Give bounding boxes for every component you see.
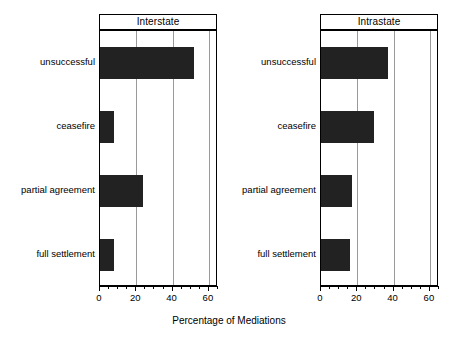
bar-unsuccessful-left [100,47,194,79]
x-tick-label-0-left: 0 [96,293,101,303]
category-label-full-settlement-right: full settlement [234,222,320,286]
plot-area-intrastate [320,30,438,286]
x-tick-25-left [144,286,145,289]
x-tick-label-60-right: 60 [424,293,435,303]
category-label-unsuccessful-right: unsuccessful [234,30,320,94]
x-tick-5-right [329,286,330,289]
x-tick-20-right [356,286,357,291]
bar-ceasefire-right [321,111,374,143]
x-axis-intrastate: 0204060 [320,286,438,316]
x-tick-15-right [347,286,348,289]
x-tick-60-left [208,286,209,291]
x-tick-45-left [181,286,182,289]
category-label-unsuccessful-left: unsuccessful [13,30,99,94]
x-tick-10-right [338,286,339,289]
x-tick-label-40-left: 40 [166,293,177,303]
x-tick-10-left [117,286,118,289]
x-tick-35-left [163,286,164,289]
x-tick-5-left [108,286,109,289]
bar-row-partial-agreement-left [100,159,216,223]
category-label-partial-agreement-right: partial agreement [234,158,320,222]
bar-row-unsuccessful-right [321,31,437,95]
x-axis-interstate: 0204060 [99,286,217,316]
x-tick-0-left [99,286,100,291]
x-tick-label-0-right: 0 [317,293,322,303]
plot-area-interstate [99,30,217,286]
x-tick-65-left [217,286,218,289]
x-tick-25-right [365,286,366,289]
x-tick-label-60-left: 60 [203,293,214,303]
bar-unsuccessful-right [321,47,388,79]
x-tick-15-left [126,286,127,289]
x-tick-50-left [190,286,191,289]
bar-row-unsuccessful-left [100,31,216,95]
bar-full-settlement-left [100,239,114,271]
x-tick-45-right [402,286,403,289]
bar-row-full-settlement-left [100,223,216,286]
panel-title-strip-intrastate: Intrastate [320,14,438,30]
x-tick-20-left [135,286,136,291]
x-tick-65-right [438,286,439,289]
bar-partial-agreement-right [321,175,352,207]
bar-row-ceasefire-right [321,95,437,159]
x-tick-35-right [384,286,385,289]
x-tick-0-right [320,286,321,291]
bar-row-partial-agreement-right [321,159,437,223]
x-tick-55-right [420,286,421,289]
category-label-ceasefire-left: ceasefire [13,94,99,158]
category-label-partial-agreement-left: partial agreement [13,158,99,222]
x-tick-50-right [411,286,412,289]
x-tick-30-right [374,286,375,289]
x-tick-40-right [393,286,394,291]
bar-partial-agreement-left [100,175,143,207]
panel-title-intrastate: Intrastate [321,15,437,29]
x-tick-label-40-right: 40 [387,293,398,303]
x-tick-label-20-right: 20 [351,293,362,303]
category-label-full-settlement-left: full settlement [13,222,99,286]
panel-title-interstate: Interstate [100,15,216,29]
x-tick-label-20-left: 20 [130,293,141,303]
bar-full-settlement-right [321,239,350,271]
category-labels-interstate: unsuccessful ceasefire partial agreement… [10,30,99,286]
bar-ceasefire-left [100,111,114,143]
x-tick-60-right [429,286,430,291]
chart-figure: Interstate unsuccessful ceasefire partia… [0,0,458,342]
bar-row-full-settlement-right [321,223,437,286]
bar-row-ceasefire-left [100,95,216,159]
x-axis-title: Percentage of Mediations [0,316,458,326]
x-tick-30-left [153,286,154,289]
category-labels-intrastate: unsuccessful ceasefire partial agreement… [231,30,320,286]
x-tick-40-left [172,286,173,291]
category-label-ceasefire-right: ceasefire [234,94,320,158]
panel-title-strip-interstate: Interstate [99,14,217,30]
x-tick-55-left [199,286,200,289]
